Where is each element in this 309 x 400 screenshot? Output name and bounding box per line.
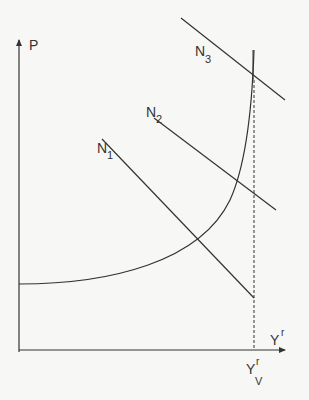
svg-text:r: r (281, 327, 285, 338)
svg-text:2: 2 (156, 113, 162, 125)
svg-text:1: 1 (107, 149, 113, 161)
label-n3: N 3 (195, 43, 211, 65)
demand-line-n2 (154, 118, 276, 210)
label-yv: Y r V (246, 356, 263, 387)
label-n2: N 2 (146, 104, 162, 125)
svg-text:Y: Y (270, 332, 280, 348)
demand-line-n1 (102, 139, 254, 298)
diagram-canvas: P Y r N 1 N 2 N 3 Y r V (0, 0, 309, 400)
svg-text:r: r (256, 356, 260, 367)
svg-text:N: N (146, 104, 156, 120)
svg-text:N: N (97, 140, 107, 156)
y-axis-label: P (29, 37, 38, 53)
svg-text:N: N (195, 43, 205, 59)
svg-text:3: 3 (205, 53, 211, 65)
svg-text:V: V (255, 375, 263, 387)
demand-line-n3 (181, 18, 285, 100)
label-n1: N 1 (97, 140, 113, 161)
x-axis-label: Y r (270, 327, 285, 348)
